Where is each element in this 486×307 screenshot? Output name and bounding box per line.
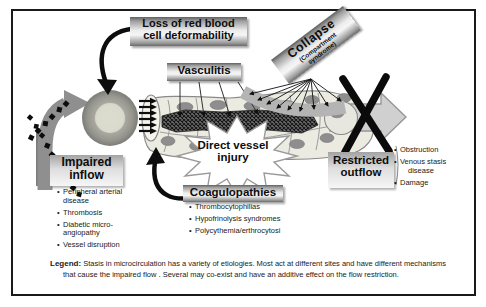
legend-text: Stasis in microcirculation has a variety… bbox=[63, 259, 446, 279]
direct-vessel-injury-label: Direct vessel injury bbox=[174, 139, 292, 164]
list-item: Peripheral arterial disease bbox=[56, 188, 128, 205]
loss-line2: cell deformability bbox=[130, 30, 247, 42]
vasculitis-label: Vasculitis bbox=[167, 63, 241, 81]
red-blood-cell bbox=[82, 90, 138, 146]
loss-pointer-arrow-icon bbox=[97, 29, 131, 95]
list-item: Vessel disruption bbox=[56, 241, 128, 250]
restricted-outflow-label: Restricted outflow bbox=[328, 152, 394, 188]
figure-page: { "colors": { "background": "#ffffff", "… bbox=[0, 0, 486, 307]
list-item: Diabetic micro-angiopathy bbox=[56, 221, 128, 238]
list-item: Thrombocytophilias bbox=[188, 203, 318, 212]
list-item: Obstruction bbox=[401, 146, 455, 155]
list-item: Venous stasis disease bbox=[401, 158, 455, 175]
inflow-causes-list: Peripheral arterial disease Thrombosis D… bbox=[56, 188, 128, 253]
impaired-line1: Impaired bbox=[50, 156, 123, 169]
list-item: Damage bbox=[401, 179, 455, 188]
list-item: Polycythemia/erthrocytosi bbox=[188, 227, 318, 236]
outflow-causes-list: Obstruction Venous stasis disease Damage bbox=[401, 146, 455, 191]
list-item: Hypofrinolysis syndromes bbox=[188, 215, 318, 224]
injury-line1: Direct vessel bbox=[174, 139, 292, 151]
injury-line2: injury bbox=[174, 151, 292, 163]
coagulopathy-causes-list: Thrombocytophilias Hypofrinolysis syndro… bbox=[188, 203, 318, 239]
impaired-line2: inflow bbox=[50, 169, 123, 182]
list-item: Thrombosis bbox=[56, 209, 128, 218]
legend-label: Legend: bbox=[50, 259, 81, 268]
restricted-line1: Restricted bbox=[328, 154, 394, 166]
figure-legend: Legend: Stasis in microcirculation has a… bbox=[50, 259, 457, 280]
impaired-inflow-label: Impaired inflow bbox=[50, 155, 123, 186]
coagulopathies-label: Coagulopathies bbox=[183, 185, 283, 202]
restricted-line2: outflow bbox=[328, 166, 394, 178]
loss-of-deformability-label: Loss of red blood cell deformability bbox=[130, 17, 247, 46]
